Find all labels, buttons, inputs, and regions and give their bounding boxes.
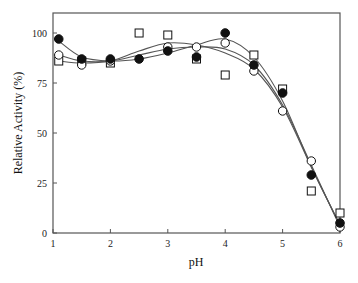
y-axis-title: Relative Activity (%) bbox=[11, 72, 25, 175]
open-square-marker bbox=[250, 51, 258, 59]
filled-circle-marker bbox=[54, 35, 63, 44]
filled-circle-marker bbox=[77, 55, 86, 64]
filled-circle-marker bbox=[250, 61, 259, 70]
open-square-marker bbox=[336, 209, 344, 217]
filled-circle-marker bbox=[336, 219, 345, 228]
x-tick-label: 1 bbox=[51, 238, 56, 249]
y-tick-label: 0 bbox=[42, 228, 47, 239]
filled-circle-marker bbox=[135, 55, 144, 64]
x-tick-label: 4 bbox=[223, 238, 228, 249]
open-square-marker bbox=[307, 187, 315, 195]
y-tick-label: 25 bbox=[37, 178, 47, 189]
relative-activity-ph-chart: 123456 0255075100 pH Relative Activity (… bbox=[0, 0, 358, 283]
open-circle-marker bbox=[307, 157, 315, 165]
x-tick-label: 2 bbox=[108, 238, 113, 249]
filled-circle-marker bbox=[192, 53, 201, 62]
x-axis-title: pH bbox=[189, 255, 204, 269]
filled-circle-marker bbox=[278, 89, 287, 98]
y-tick-label: 100 bbox=[32, 28, 47, 39]
filled-circle-marker bbox=[106, 55, 115, 64]
y-tick-label: 75 bbox=[37, 78, 47, 89]
open-square-marker bbox=[135, 29, 143, 37]
open-circle-marker bbox=[278, 107, 286, 115]
open-circle-marker bbox=[221, 39, 229, 47]
open-circle-marker bbox=[192, 43, 200, 51]
filled-circle-marker bbox=[164, 47, 173, 56]
filled-circle-marker bbox=[307, 171, 316, 180]
open-square-marker bbox=[221, 71, 229, 79]
x-tick-label: 5 bbox=[280, 238, 285, 249]
open-square-marker bbox=[164, 31, 172, 39]
x-tick-label: 6 bbox=[338, 238, 343, 249]
open-circle-marker bbox=[55, 51, 63, 59]
x-tick-label: 3 bbox=[165, 238, 170, 249]
y-tick-label: 50 bbox=[37, 128, 47, 139]
filled-circle-marker bbox=[221, 29, 230, 38]
